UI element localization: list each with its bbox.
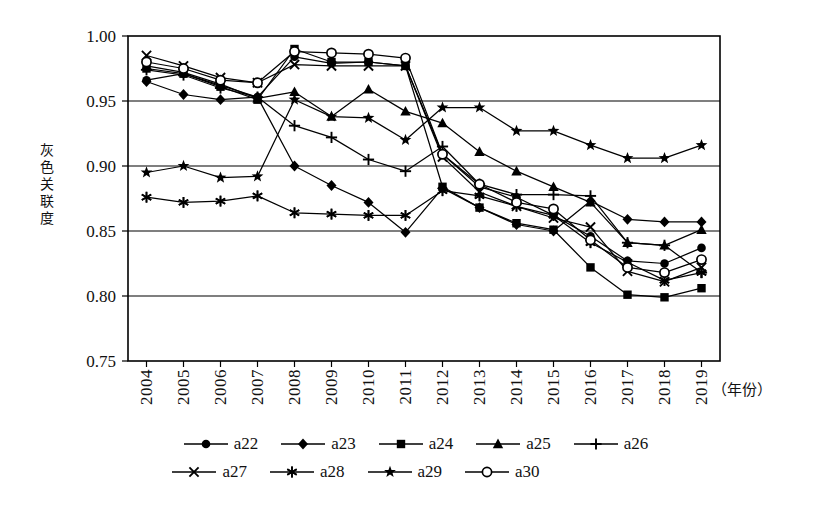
x-tick-label: 2004 <box>137 369 157 405</box>
x-tick-label: 2017 <box>618 369 638 405</box>
legend-item-a28[interactable]: a28 <box>269 462 345 482</box>
x-tick-label: 2008 <box>285 369 305 405</box>
legend-marker-asterisk-icon <box>269 463 315 481</box>
chart-legend: a22a23a24a25a26 a27a28a29a30 <box>0 430 831 486</box>
legend-label: a29 <box>418 462 443 482</box>
x-axis-title: （年份） <box>712 378 772 399</box>
legend-marker-filled-circle-icon <box>183 435 229 453</box>
x-tick-label: 2010 <box>359 369 379 405</box>
legend-row-1: a22a23a24a25a26 <box>0 430 831 458</box>
x-tick-label: 2012 <box>433 369 453 405</box>
legend-item-a23[interactable]: a23 <box>280 434 356 454</box>
x-tick-label: 2006 <box>211 369 231 405</box>
legend-marker-filled-star-icon <box>367 463 413 481</box>
x-tick-label: 2014 <box>507 369 527 405</box>
x-tick-label: 2007 <box>248 369 268 405</box>
legend-marker-open-circle-icon <box>464 463 510 481</box>
chart-figure: 灰 色 关 联 度 1.00 0.95 0.90 0.85 0.80 0.75 … <box>0 0 831 509</box>
legend-item-a22[interactable]: a22 <box>183 434 259 454</box>
legend-label: a27 <box>222 462 247 482</box>
legend-row-2: a27a28a29a30 <box>0 458 831 486</box>
x-tick-label: 2018 <box>655 369 675 405</box>
x-tick-label: 2005 <box>174 369 194 405</box>
legend-label: a30 <box>515 462 540 482</box>
legend-label: a25 <box>526 434 551 454</box>
legend-item-a24[interactable]: a24 <box>378 434 454 454</box>
x-tick-label: 2011 <box>396 369 416 404</box>
legend-marker-filled-triangle-icon <box>475 435 521 453</box>
x-tick-label: 2019 <box>692 369 712 405</box>
legend-item-a27[interactable]: a27 <box>171 462 247 482</box>
x-tick-label: 2009 <box>322 369 342 405</box>
legend-marker-cross-icon <box>171 463 217 481</box>
legend-marker-plus-icon <box>573 435 619 453</box>
legend-label: a24 <box>429 434 454 454</box>
legend-item-a30[interactable]: a30 <box>464 462 540 482</box>
legend-marker-filled-square-icon <box>378 435 424 453</box>
legend-label: a26 <box>624 434 649 454</box>
legend-label: a28 <box>320 462 345 482</box>
legend-label: a22 <box>234 434 259 454</box>
legend-label: a23 <box>331 434 356 454</box>
series-a30 <box>142 47 706 277</box>
series-a23 <box>142 76 707 238</box>
legend-marker-filled-diamond-icon <box>280 435 326 453</box>
legend-item-a25[interactable]: a25 <box>475 434 551 454</box>
x-tick-label: 2015 <box>544 369 564 405</box>
x-tick-label: 2013 <box>470 369 490 405</box>
legend-item-a29[interactable]: a29 <box>367 462 443 482</box>
legend-item-a26[interactable]: a26 <box>573 434 649 454</box>
x-tick-label: 2016 <box>581 369 601 405</box>
series-a26 <box>141 64 707 278</box>
